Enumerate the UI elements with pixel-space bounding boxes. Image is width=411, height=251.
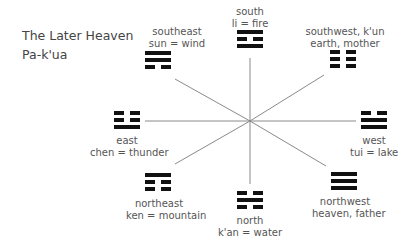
broken-line (330, 64, 356, 68)
solid-line (331, 172, 357, 176)
broken-line (237, 191, 263, 195)
broken-line (114, 118, 140, 122)
trigram-northeast (145, 173, 171, 194)
trigram-southeast (145, 51, 171, 72)
direction-text: northwest (312, 196, 378, 208)
broken-line (145, 180, 171, 184)
line-segment (130, 111, 140, 115)
solid-line (237, 44, 263, 48)
line-segment (145, 51, 171, 55)
line-segment (145, 58, 171, 62)
solid-line (237, 198, 263, 202)
meaning-text: ken = mountain (126, 210, 192, 222)
solid-line (145, 173, 171, 177)
line-segment (346, 57, 356, 61)
line-segment (330, 64, 340, 68)
line-segment (237, 44, 263, 48)
broken-line (330, 50, 356, 54)
line-segment (237, 198, 263, 202)
direction-text: southeast (142, 26, 212, 38)
line-segment (114, 125, 140, 129)
spoke-northwest (250, 121, 326, 166)
trigram-west (361, 111, 387, 132)
solid-line (145, 58, 171, 62)
line-segment (161, 180, 171, 184)
trigram-south (237, 30, 263, 51)
direction-text: northeast (126, 198, 192, 210)
solid-line (331, 186, 357, 190)
label-northwest: northwest heaven, father (312, 196, 378, 220)
solid-line (331, 179, 357, 183)
label-southwest: southwest, k'un earth, mother (305, 26, 385, 50)
broken-line (361, 111, 387, 115)
trigram-southwest (330, 50, 356, 71)
spoke-southwest (250, 75, 324, 121)
solid-line (237, 30, 263, 34)
line-segment (253, 37, 263, 41)
trigram-east (114, 111, 140, 132)
line-segment (237, 30, 263, 34)
spoke-northeast (175, 121, 250, 164)
line-segment (145, 173, 171, 177)
line-segment (114, 111, 124, 115)
line-segment (361, 118, 387, 122)
meaning-text: k'an = water (215, 227, 285, 239)
direction-text: north (215, 215, 285, 227)
broken-line (237, 205, 263, 209)
solid-line (361, 118, 387, 122)
meaning-text: chen = thunder (90, 147, 164, 159)
trigram-northwest (331, 172, 357, 193)
meaning-text: tui = lake (350, 147, 398, 159)
direction-text: south (220, 6, 280, 18)
line-segment (330, 57, 340, 61)
label-east: east chen = thunder (90, 135, 164, 159)
line-segment (130, 118, 140, 122)
label-north: north k'an = water (215, 215, 285, 239)
broken-line (145, 187, 171, 191)
line-segment (331, 172, 357, 176)
line-segment (161, 187, 171, 191)
line-segment (377, 111, 387, 115)
line-segment (145, 65, 155, 69)
line-segment (161, 65, 171, 69)
line-segment (346, 64, 356, 68)
direction-text: east (90, 135, 164, 147)
label-south: south li = fire (220, 6, 280, 30)
line-segment (346, 50, 356, 54)
line-segment (331, 186, 357, 190)
direction-text: west (350, 135, 398, 147)
line-segment (237, 205, 247, 209)
line-segment (145, 180, 155, 184)
broken-line (145, 65, 171, 69)
line-segment (330, 50, 340, 54)
broken-line (237, 37, 263, 41)
label-northeast: northeast ken = mountain (126, 198, 192, 222)
meaning-text: earth, mother (305, 38, 385, 50)
trigram-north (237, 191, 263, 212)
broken-line (114, 111, 140, 115)
label-west: west tui = lake (350, 135, 398, 159)
line-segment (145, 187, 155, 191)
solid-line (361, 125, 387, 129)
meaning-text: li = fire (220, 18, 280, 30)
line-segment (253, 191, 263, 195)
line-segment (361, 111, 371, 115)
label-southeast: southeast sun = wind (142, 26, 212, 50)
spoke-southeast (175, 79, 250, 121)
line-segment (114, 118, 124, 122)
broken-line (330, 57, 356, 61)
line-segment (253, 205, 263, 209)
meaning-text: heaven, father (312, 208, 378, 220)
line-segment (331, 179, 357, 183)
line-segment (237, 191, 247, 195)
line-segment (237, 37, 247, 41)
direction-text: southwest, k'un (305, 26, 385, 38)
solid-line (114, 125, 140, 129)
line-segment (361, 125, 387, 129)
meaning-text: sun = wind (142, 38, 212, 50)
solid-line (145, 51, 171, 55)
